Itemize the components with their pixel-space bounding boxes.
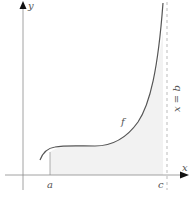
shaded-area-region — [50, 30, 163, 175]
y-axis-arrow-icon — [20, 1, 27, 9]
function-f-label: f — [120, 116, 127, 127]
point-c-label: c — [158, 179, 164, 190]
diagram-canvas: y x a c f x = b — [0, 0, 196, 204]
point-a-label: a — [47, 179, 53, 190]
y-axis-label: y — [27, 0, 34, 11]
x-axis-label: x — [182, 162, 188, 173]
x-equals-b-label: x = b — [171, 85, 182, 112]
